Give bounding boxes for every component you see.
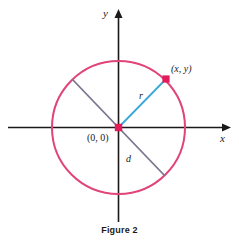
figure-caption: Figure 2 — [0, 225, 239, 235]
diameter-label: d — [126, 154, 131, 164]
x-axis-arrow-icon — [222, 124, 231, 132]
point-xy-label: (x, y) — [171, 64, 192, 74]
y-axis-arrow-icon — [115, 9, 123, 18]
x-axis-label: x — [220, 133, 225, 144]
radius-segment — [119, 79, 167, 128]
origin-point-marker — [115, 124, 122, 131]
y-axis-label: y — [103, 8, 108, 19]
xy-point-marker — [162, 75, 169, 82]
circle-diagram — [0, 0, 239, 244]
origin-label: (0, 0) — [87, 133, 109, 143]
figure-container: y x (x, y) r d (0, 0) Figure 2 — [0, 0, 239, 244]
radius-label: r — [139, 91, 143, 101]
